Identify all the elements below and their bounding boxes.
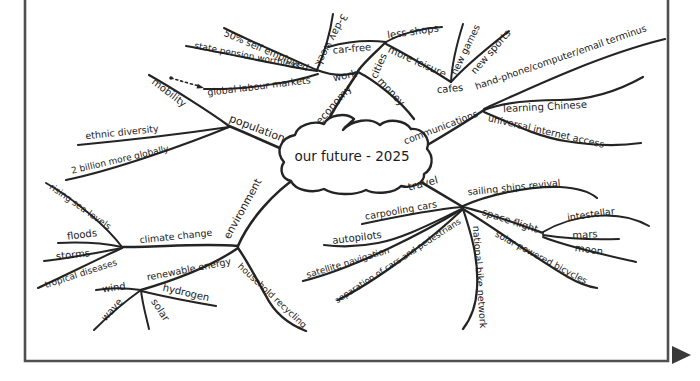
node-label-space-flight: space flight [481, 206, 540, 234]
node-label-car-free: car-free [332, 41, 371, 55]
node-label-money: money [376, 75, 407, 108]
node-label-global-labour: global labour markets [207, 74, 312, 98]
node-label-storms: storms [55, 247, 90, 262]
scroll-right-arrow-icon[interactable] [672, 346, 691, 364]
node-label-solar: solar [149, 297, 172, 324]
node-label-learning-chinese: learning Chinese [503, 99, 587, 114]
node-label-wind: wind [101, 280, 126, 294]
node-label-mars: mars [572, 228, 598, 240]
node-label-climate-change: climate change [139, 227, 213, 246]
dotted-link-arrowhead-icon [197, 84, 205, 89]
node-label-environment: environment [221, 176, 264, 240]
node-label-cafes: cafes [436, 82, 464, 96]
dotted-link-line [171, 78, 199, 86]
node-label-carpooling: carpooling cars [364, 198, 438, 221]
node-label-household-recycling: household recycling [236, 261, 309, 330]
node-label-renewable-energy: renewable energy [146, 255, 233, 282]
node-label-less-shops: less shops [387, 22, 440, 40]
node-label-two-billion: 2 billion more globally [70, 143, 170, 175]
node-label-more-leisure: more leisure [386, 44, 447, 79]
node-label-rising-sea: rising sea-levels [48, 182, 114, 232]
dotted-link-origin-dot [169, 76, 173, 80]
node-label-sailing-ships: sailing ships revival [467, 177, 561, 198]
node-label-work: work [332, 68, 358, 84]
node-label-floods: floods [66, 227, 97, 242]
branch-solar [141, 290, 149, 329]
node-label-wave: wave [99, 296, 125, 323]
node-label-communications: communications [402, 108, 479, 146]
branch-floods [58, 243, 122, 247]
node-label-bike-network: national bike network [471, 225, 489, 329]
node-label-moon: moon [574, 242, 604, 257]
mindmap-svg: our future - 2025populationmobilityethni… [0, 0, 700, 381]
node-label-center: our future - 2025 [294, 148, 409, 164]
node-label-intestellar: intestellar [566, 205, 615, 223]
mindmap-canvas: our future - 2025populationmobilityethni… [0, 0, 700, 381]
node-label-universal-internet: universal internet access [487, 112, 606, 150]
